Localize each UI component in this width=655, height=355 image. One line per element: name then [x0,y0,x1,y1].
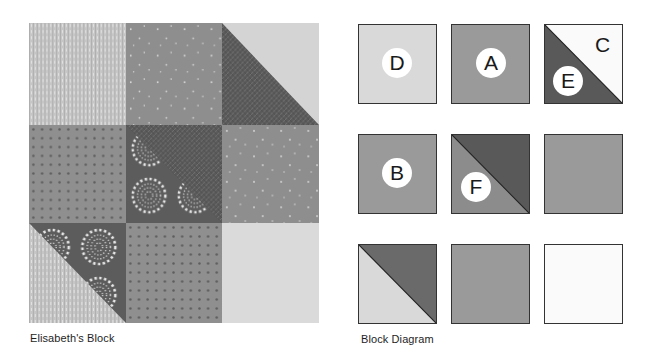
label-e: E [553,66,583,96]
patch-hst-text-flower [29,223,126,323]
label-b: B [382,158,412,188]
patch-dot-print [29,125,126,223]
diagram-cell-hst-light-dark [358,244,437,324]
patch-solid-light [222,223,319,323]
diagram-cell-medium [544,134,623,214]
label-d: D [382,48,412,78]
diagram-cell-f: F [451,134,530,214]
diagram-cell-white [544,244,623,324]
patch-sprinkle-print-2 [222,125,319,223]
diagram-caption: Block Diagram [361,333,434,345]
patch-dot-print-2 [126,223,222,323]
diagram-cell-d: D [358,24,437,104]
patch-hst-crosshatch [222,23,319,125]
diagram-cell-b: B [358,134,437,214]
patch-text-print [29,23,126,125]
photo-caption: Elisabeth's Block [30,332,115,344]
quilt-block-photo [29,23,319,323]
label-f: F [461,172,491,202]
diagram-cell-ce: C E [544,24,623,104]
patch-hst-flower-crosshatch [126,125,222,223]
diagram-cell-a: A [451,24,530,104]
patch-sprinkle-print [126,23,222,125]
label-a: A [476,48,506,78]
diagram-cell-medium-2 [451,244,530,324]
label-c: C [595,33,610,57]
